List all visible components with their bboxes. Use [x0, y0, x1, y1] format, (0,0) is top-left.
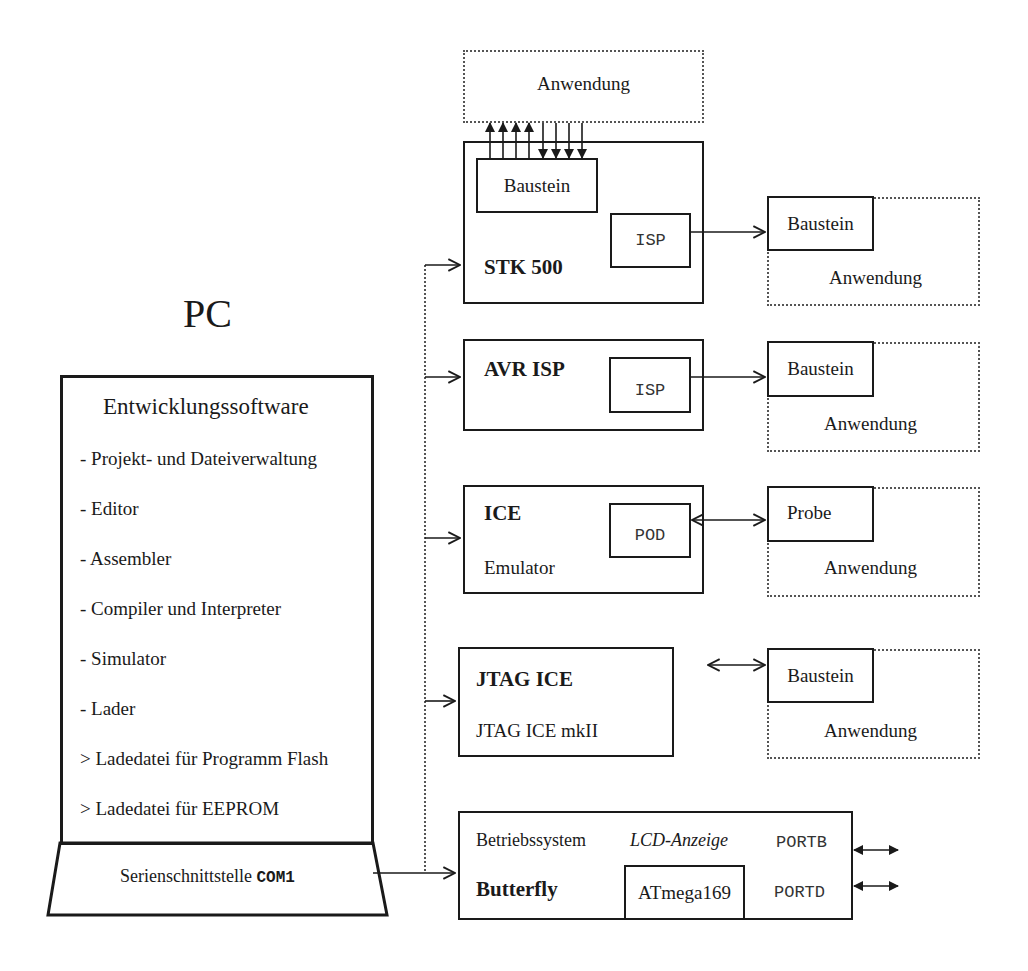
software-item: - Compiler und Interpreter	[80, 598, 281, 620]
butterfly-title: Butterfly	[476, 877, 558, 902]
software-item: - Projekt- und Dateiverwaltung	[80, 448, 317, 470]
ice-target-probe-label: Probe	[787, 502, 831, 524]
stk500-target-chip-label: Baustein	[787, 213, 854, 235]
avr-isp-target-chip-label: Baustein	[787, 358, 854, 380]
ice-pod-label: POD	[635, 526, 666, 545]
stk500-target-chip-box: Baustein	[767, 196, 874, 251]
ice-pod-box: POD	[609, 503, 691, 558]
serial-label: Serienschnittstelle	[120, 866, 252, 886]
butterfly-lcd-label: LCD-Anzeige	[630, 830, 728, 851]
stk500-application-label: Anwendung	[537, 73, 630, 95]
stk500-isp-box: ISP	[610, 213, 691, 268]
avr-isp-target-chip-box: Baustein	[767, 341, 874, 397]
jtag-ice-title: JTAG ICE	[476, 667, 573, 692]
stk500-chip-label: Baustein	[504, 175, 571, 197]
software-item: > Ladedatei für EEPROM	[80, 798, 279, 820]
serial-port: COM1	[256, 869, 294, 887]
butterfly-mcu-box: ATmega169	[624, 865, 745, 920]
software-item: - Lader	[80, 698, 135, 720]
ice-title: ICE	[484, 501, 521, 526]
stk500-target-application-label: Anwendung	[829, 267, 922, 289]
avr-isp-title: AVR ISP	[484, 357, 565, 382]
stk500-isp-label: ISP	[635, 231, 666, 250]
pc-title: PC	[183, 290, 232, 337]
avr-isp-target-application-label: Anwendung	[824, 413, 917, 435]
jtag-ice-subtitle: JTAG ICE mkII	[476, 720, 598, 742]
stk500-title: STK 500	[484, 255, 563, 280]
stk500-chip-box: Baustein	[476, 158, 598, 213]
software-item: - Editor	[80, 498, 139, 520]
ice-target-probe-box: Probe	[767, 486, 874, 542]
ice-subtitle: Emulator	[484, 557, 555, 579]
software-item: - Simulator	[80, 648, 166, 670]
software-item: - Assembler	[80, 548, 171, 570]
jtag-target-chip-label: Baustein	[787, 665, 854, 687]
butterfly-portd-label: PORTD	[774, 883, 825, 902]
butterfly-mcu-label: ATmega169	[638, 882, 731, 904]
stk500-application-box: Anwendung	[463, 50, 704, 123]
butterfly-portb-label: PORTB	[776, 833, 827, 852]
serial-interface-label: Serienschnittstelle COM1	[120, 866, 295, 887]
avr-isp-isp-box: ISP	[609, 357, 691, 413]
jtag-target-chip-box: Baustein	[767, 648, 874, 703]
jtag-target-application-label: Anwendung	[824, 720, 917, 742]
butterfly-os-label: Betriebssystem	[476, 830, 586, 851]
software-title: Entwicklungssoftware	[103, 394, 309, 420]
ice-target-application-label: Anwendung	[824, 557, 917, 579]
avr-isp-isp-label: ISP	[635, 381, 666, 400]
software-item: > Ladedatei für Programm Flash	[80, 748, 328, 770]
